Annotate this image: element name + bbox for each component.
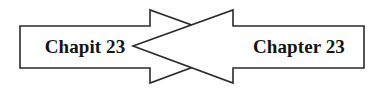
bidirectional-arrow-diagram: Chapit 23 Chapter 23 [0,0,383,92]
left-arrow-label: Chapit 23 [20,37,150,56]
right-arrow-label: Chapter 23 [234,37,364,56]
